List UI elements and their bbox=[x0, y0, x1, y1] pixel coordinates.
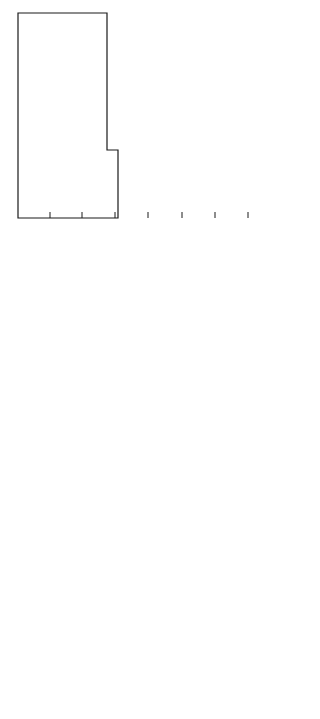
figure-drawing bbox=[0, 0, 320, 719]
